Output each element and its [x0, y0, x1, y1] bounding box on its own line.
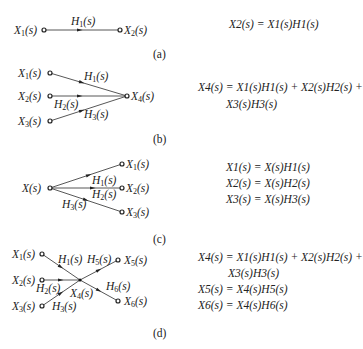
node-x1: [120, 162, 124, 166]
node-x1: [42, 28, 46, 32]
node-x2: [118, 28, 122, 32]
node-x6: [116, 299, 120, 303]
caption-a: (a): [153, 48, 166, 61]
equation-c-3: X3(s) = X(s)H3(s): [226, 192, 310, 207]
node-label-x1: X1(s): [13, 24, 37, 38]
branch-label-h3: H3(s): [51, 300, 77, 314]
equation-c-1: X1(s) = X(s)H1(s): [226, 160, 310, 175]
branch-label-h1: H1(s): [57, 253, 83, 267]
node-label-x2: X2(s): [125, 182, 149, 196]
node-x4: [125, 94, 129, 98]
node-label-x5: X5(s): [123, 254, 147, 268]
equation-c-2: X2(s) = X(s)H2(s): [226, 176, 310, 191]
equation-d-4: X6(s) = X4(s)H6(s): [198, 298, 288, 313]
branch-label-h3: H3(s): [83, 108, 109, 122]
branch-label-h2: H2(s): [53, 98, 79, 112]
branch-label-h6: H6(s): [105, 280, 131, 294]
branch-label-h5: H5(s): [86, 253, 112, 267]
node-x3: [120, 210, 124, 214]
caption-c: (c): [153, 233, 166, 246]
panel-d: X1(s) X2(s) X3(s) X5(s) X6(s) X4(s) H1(s…: [11, 248, 167, 340]
equation-d-3: X5(s) = X4(s)H5(s): [198, 282, 288, 297]
panel-b: X1(s) X2(s) X3(s) X4(s) H1(s) H2(s) H3(s…: [17, 67, 167, 146]
node-label-x1: X1(s): [11, 248, 35, 262]
equation-d-2: X3(s)H3(s): [228, 266, 279, 281]
node-label-x3: X3(s): [125, 206, 149, 220]
branch-label-h1: H1(s): [83, 70, 109, 84]
node-x: [48, 186, 52, 190]
node-x1: [48, 71, 52, 75]
node-label-x2: X2(s): [17, 90, 41, 104]
node-label-x3: X3(s): [11, 300, 35, 314]
node-label-x1: X1(s): [17, 67, 41, 81]
branch-label-h2: H2(s): [35, 282, 61, 296]
node-x4: [78, 278, 81, 281]
equation-a-1: X2(s) = X1(s)H1(s): [229, 17, 319, 32]
arrow-icon: [96, 288, 102, 293]
node-x2: [48, 94, 52, 98]
caption-b: (b): [153, 133, 167, 146]
panel-a: X1(s) X2(s) H1(s) (a): [13, 15, 166, 61]
branch-label-h1: H1(s): [70, 15, 96, 29]
equation-b-2: X3(s)H3(s): [226, 97, 277, 112]
equation-b-1: X4(s) = X1(s)H1(s) + X2(s)H2(s) +: [198, 80, 363, 95]
node-x5: [116, 258, 120, 262]
node-x3: [48, 119, 52, 123]
panel-c: X(s) X1(s) X2(s) X3(s) H1(s) H2(s) H3(s)…: [21, 158, 166, 246]
node-label-x1: X1(s): [125, 158, 149, 172]
arrow-icon: [86, 173, 92, 178]
branch-label-h1: H1(s): [91, 174, 117, 188]
node-label-x: X(s): [21, 182, 41, 195]
caption-d: (d): [153, 327, 167, 340]
branch-label-h2: H2(s): [91, 188, 117, 202]
branch-label-h3: H3(s): [61, 198, 87, 212]
node-x3: [40, 304, 44, 308]
node-label-x3: X3(s): [17, 115, 41, 129]
node-label-x2: X2(s): [11, 274, 35, 288]
equation-d-1: X4(s) = X1(s)H1(s) + X2(s)H2(s) +: [198, 250, 363, 265]
node-label-x4: X4(s): [69, 287, 93, 301]
node-label-x4: X4(s): [130, 90, 154, 104]
node-x2: [120, 186, 124, 190]
node-x1: [40, 252, 44, 256]
arrow-icon: [96, 267, 102, 272]
node-label-x2: X2(s): [123, 24, 147, 38]
node-label-x6: X6(s): [123, 295, 147, 309]
